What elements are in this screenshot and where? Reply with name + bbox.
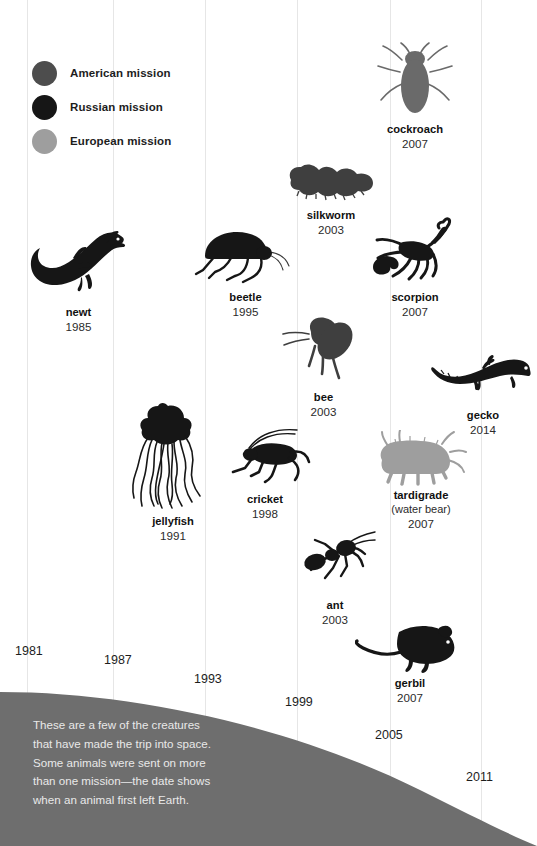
datapoint-jellyfish: jellyfish 1991: [128, 400, 218, 543]
cricket-icon: [215, 428, 315, 490]
legend-item-russian: Russian mission: [32, 90, 171, 124]
caption-line-3: Some animals were sent on more: [33, 754, 293, 773]
legend-label-russian: Russian mission: [70, 101, 163, 113]
jellyfish-icon: [128, 400, 218, 512]
legend-item-american: American mission: [32, 56, 171, 90]
datapoint-scorpion: scorpion 2007: [365, 216, 465, 319]
animal-year: 2007: [365, 304, 465, 319]
datapoint-cricket: cricket 1998: [215, 428, 315, 521]
animal-sublabel: (water bear): [366, 502, 476, 516]
ant-icon: [289, 530, 381, 596]
animal-name: gecko: [430, 408, 536, 422]
animal-name: jellyfish: [128, 514, 218, 528]
animal-year: 2007: [366, 516, 476, 531]
datapoint-newt: newt 1985: [26, 228, 131, 334]
datapoint-beetle: beetle 1995: [193, 226, 298, 319]
tardigrade-icon: [366, 430, 476, 486]
caption-line-2: that have made the trip into space.: [33, 735, 293, 754]
legend-swatch-european: [32, 129, 57, 154]
animal-name: cricket: [215, 492, 315, 506]
animal-name: beetle: [193, 290, 298, 304]
bee-icon: [281, 312, 366, 388]
caption-text: These are a few of the creatures that ha…: [33, 716, 293, 810]
animal-year: 2007: [374, 136, 456, 151]
caption-line-5: when an animal first left Earth.: [33, 791, 293, 810]
cockroach-icon: [374, 42, 456, 120]
animal-year: 2003: [285, 222, 377, 237]
animal-year: 2003: [281, 404, 366, 419]
legend-swatch-american: [32, 61, 57, 86]
legend-item-european: European mission: [32, 124, 171, 158]
animal-name: newt: [26, 305, 131, 319]
beetle-icon: [193, 226, 298, 288]
animal-name: cockroach: [374, 122, 456, 136]
newt-icon: [26, 228, 131, 303]
datapoint-bee: bee 2003: [281, 312, 366, 419]
legend-swatch-russian: [32, 95, 57, 120]
legend-label-european: European mission: [70, 135, 171, 147]
datapoint-gecko: gecko 2014: [430, 348, 536, 437]
datapoint-ant: ant 2003: [289, 530, 381, 627]
gecko-icon: [430, 348, 536, 406]
silkworm-icon: [285, 160, 377, 206]
datapoint-tardigrade: tardigrade (water bear) 2007: [366, 430, 476, 531]
animal-name: scorpion: [365, 290, 465, 304]
caption-line-1: These are a few of the creatures: [33, 716, 293, 735]
animal-name: bee: [281, 390, 366, 404]
animal-name: tardigrade: [366, 488, 476, 502]
animal-name: ant: [289, 598, 381, 612]
animal-year: 1998: [215, 506, 315, 521]
caption-line-4: than one mission—the date shows: [33, 772, 293, 791]
animal-year: 1985: [26, 319, 131, 334]
animal-name: silkworm: [285, 208, 377, 222]
scorpion-icon: [365, 216, 465, 288]
datapoint-silkworm: silkworm 2003: [285, 160, 377, 237]
animal-year: 1991: [128, 528, 218, 543]
datapoint-cockroach: cockroach 2007: [374, 42, 456, 151]
legend: American mission Russian mission Europea…: [32, 56, 171, 158]
infographic-canvas: American mission Russian mission Europea…: [0, 0, 537, 846]
legend-label-american: American mission: [70, 67, 171, 79]
